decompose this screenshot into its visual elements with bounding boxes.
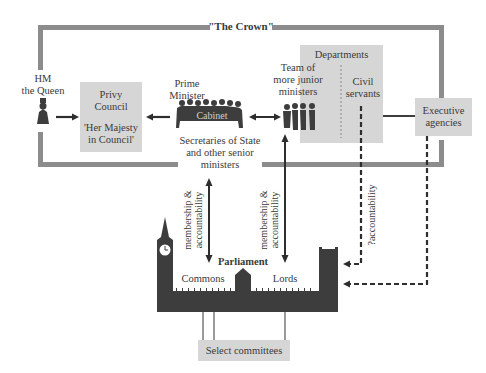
arrowhead-agencies — [343, 281, 350, 288]
select-committees-connectors — [203, 312, 285, 340]
civil-servants-label: Civil servants — [342, 76, 384, 100]
junior-ministers-line2: more junior — [268, 74, 328, 86]
arrow-cabinet-junior — [249, 114, 281, 121]
right-link-line1: membership & — [258, 182, 269, 258]
executive-agencies-line1: Executive — [415, 105, 472, 117]
privy-council-box[interactable]: Privy Council 'Her Majesty in Council' — [80, 82, 142, 152]
left-link-line2: accountability — [193, 182, 204, 258]
right-link-line2: accountability — [269, 182, 280, 258]
commons-label: Commons — [176, 273, 230, 285]
secretaries-label: Secretaries of State and other senior mi… — [168, 135, 272, 171]
prime-minister-line1: Prime — [162, 78, 212, 90]
arrowhead-civil — [343, 261, 350, 268]
privy-council-line1: Privy — [80, 89, 142, 101]
privy-council-line3: 'Her Majesty — [80, 122, 142, 134]
diagram-graphics — [0, 0, 486, 373]
arrow-cabinet-to-privy — [146, 114, 170, 121]
parliament-label: Parliament — [213, 256, 273, 268]
queen-label: HM the Queen — [18, 73, 68, 97]
civil-servants-line1: Civil — [342, 76, 384, 88]
prime-minister-label: Prime Minister — [162, 78, 212, 102]
executive-agencies-line2: agencies — [415, 117, 472, 129]
arrow-agencies-parliament — [348, 136, 427, 284]
queen-label-line1: HM — [18, 73, 68, 85]
crown-title: "The Crown" — [205, 20, 277, 32]
clock-icon — [160, 245, 171, 256]
left-link-label: membership & accountability — [182, 182, 206, 258]
select-committees-label: Select committees — [198, 345, 290, 357]
secretaries-line2: and other senior — [168, 147, 272, 159]
junior-ministers-line3: ministers — [268, 86, 328, 98]
arrow-queen-to-privy — [56, 114, 79, 121]
departments-label: Departments — [300, 49, 383, 61]
secretaries-line1: Secretaries of State — [168, 135, 272, 147]
lords-label: Lords — [262, 273, 308, 285]
privy-council-line2: Council — [80, 101, 142, 113]
privy-council-line4: in Council' — [80, 134, 142, 146]
junior-ministers-icon — [283, 103, 315, 130]
civil-link-label: ?accountability — [366, 175, 378, 255]
prime-minister-line2: Minister — [162, 90, 212, 102]
secretaries-line3: ministers — [168, 159, 272, 171]
arrow-junior-lords — [282, 134, 289, 263]
queen-icon — [37, 98, 49, 124]
cabinet-label: Cabinet — [192, 110, 232, 122]
executive-agencies-label: Executive agencies — [415, 105, 472, 129]
left-link-line1: membership & — [182, 182, 193, 258]
queen-label-line2: the Queen — [18, 85, 68, 97]
junior-ministers-line1: Team of — [268, 62, 328, 74]
arrow-secretaries-commons — [206, 178, 213, 263]
right-link-label: membership & accountability — [258, 182, 282, 258]
civil-servants-line2: servants — [342, 88, 384, 100]
junior-ministers-label: Team of more junior ministers — [268, 62, 328, 98]
